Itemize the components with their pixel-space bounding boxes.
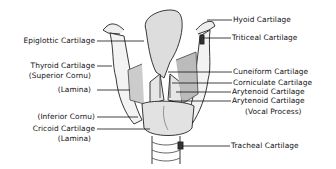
label-arytenoid-cartilage-2: Arytenoid Cartilage: [232, 96, 305, 105]
label-cuneiform-cartilage: Cuneiform Cartilage: [233, 67, 308, 76]
label-thyroid-superior-cornu: (Superior Cornu): [29, 71, 91, 80]
label-corniculate-cartilage: Corniculate Cartilage: [233, 78, 312, 87]
label-inferior-cornu: (Inferior Cornu): [37, 112, 95, 121]
label-tracheal-cartilage: Tracheal Cartilage: [231, 141, 299, 150]
label-thyroid-lamina: (Lamina): [58, 85, 91, 94]
hyoid-left-horn: [103, 24, 124, 34]
arytenoid-left: [150, 74, 164, 104]
label-arytenoid-cartilage: Arytenoid Cartilage: [232, 87, 305, 96]
label-cricoid-cartilage: Cricoid Cartilage: [33, 124, 95, 133]
hyoid-right-horn: [196, 21, 215, 34]
label-triticeal-cartilage: Triticeal Cartilage: [232, 33, 297, 42]
label-vocal-process: (Vocal Process): [245, 107, 302, 116]
cricoid-lamina: [142, 101, 194, 135]
label-epiglottic-cartilage: Epiglottic Cartilage: [24, 36, 95, 45]
label-cricoid-lamina: (Lamina): [58, 134, 91, 143]
label-hyoid-cartilage: Hyoid Cartilage: [233, 15, 291, 24]
epiglottis: [145, 10, 182, 78]
label-thyroid-cartilage: Thyroid Cartilage: [31, 61, 95, 70]
